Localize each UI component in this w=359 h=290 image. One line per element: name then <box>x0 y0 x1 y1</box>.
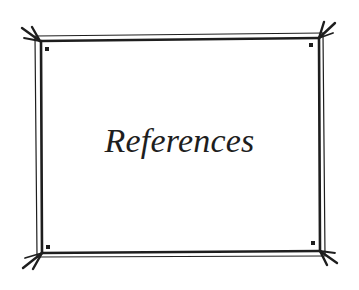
page-title: References <box>0 121 359 161</box>
corner-dot-bottom-right <box>311 241 315 245</box>
corner-dot-top-right <box>309 43 313 47</box>
corner-dot-top-left <box>45 47 49 51</box>
corner-dot-bottom-left <box>46 245 50 249</box>
